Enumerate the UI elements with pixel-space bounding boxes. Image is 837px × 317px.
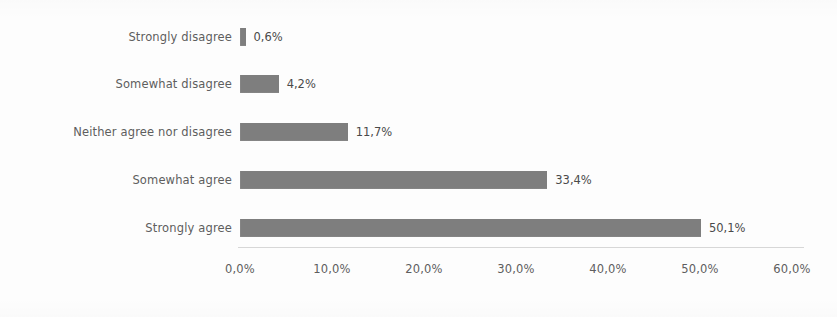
- x-axis-tick-label: 50,0%: [654, 262, 746, 276]
- category-label: Neither agree nor disagree: [0, 112, 232, 152]
- bar: [240, 219, 701, 237]
- bar-value-label: 33,4%: [555, 171, 592, 189]
- bar: [240, 171, 547, 189]
- x-axis-tick-label: 60,0%: [746, 262, 837, 276]
- bar-track: [240, 219, 701, 237]
- category-label: Strongly agree: [0, 208, 232, 248]
- bar-track: [240, 123, 348, 141]
- bar-value-label: 50,1%: [709, 219, 746, 237]
- chart-row: Neither agree nor disagree 11,7%: [0, 112, 837, 152]
- bar: [240, 75, 279, 93]
- bar-track: [240, 75, 279, 93]
- chart-row: Somewhat disagree 4,2%: [0, 64, 837, 104]
- chart-row: Strongly disagree 0,6%: [0, 17, 837, 57]
- bar-chart: Strongly disagree 0,6% Somewhat disagree…: [0, 0, 837, 317]
- x-axis-line: [238, 247, 804, 248]
- bar-track: [240, 28, 246, 46]
- x-axis-tick-label: 0,0%: [194, 262, 286, 276]
- chart-row: Strongly agree 50,1%: [0, 208, 837, 248]
- x-axis-tick-label: 20,0%: [378, 262, 470, 276]
- bar-value-label: 11,7%: [356, 123, 393, 141]
- bar: [240, 28, 246, 46]
- category-label: Somewhat disagree: [0, 64, 232, 104]
- bar: [240, 123, 348, 141]
- bar-track: [240, 171, 547, 189]
- bar-value-label: 4,2%: [287, 75, 316, 93]
- bar-value-label: 0,6%: [254, 28, 283, 46]
- category-label: Somewhat agree: [0, 160, 232, 200]
- x-axis-tick-label: 40,0%: [562, 262, 654, 276]
- x-axis-tick-label: 10,0%: [286, 262, 378, 276]
- x-axis-tick-label: 30,0%: [470, 262, 562, 276]
- category-label: Strongly disagree: [0, 17, 232, 57]
- chart-row: Somewhat agree 33,4%: [0, 160, 837, 200]
